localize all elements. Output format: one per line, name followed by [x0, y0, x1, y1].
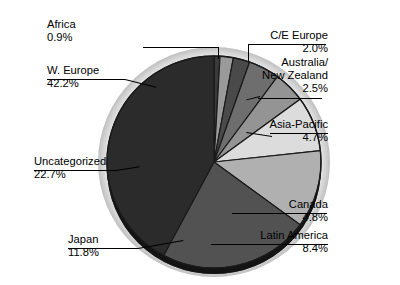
label-japan-name: Japan	[68, 233, 99, 246]
label-ce-europe: C/E Europe 2.0%	[208, 29, 328, 55]
label-japan: Japan 11.8%	[68, 233, 99, 259]
label-australia-new-zealand: Australia/ New Zealand 2.5%	[208, 56, 328, 96]
label-australia-value: 2.5%	[208, 82, 328, 95]
label-latin-america-name: Latin America	[208, 229, 328, 242]
label-ce-europe-name: C/E Europe	[208, 29, 328, 42]
label-latin-america: Latin America 8.4%	[208, 229, 328, 255]
label-japan-value: 11.8%	[68, 246, 99, 259]
label-w-europe: W. Europe 42.2%	[47, 64, 99, 90]
label-africa-value: 0.9%	[47, 31, 76, 44]
label-canada: Canada 4.8%	[208, 198, 328, 224]
label-canada-value: 4.8%	[208, 211, 328, 224]
label-uncategorized: Uncategorized 22.7%	[34, 155, 106, 181]
leader-line-africa-h	[143, 47, 218, 48]
label-australia-line1: Australia/	[208, 56, 328, 69]
label-asia-pacific: Asia-Pacific 4.7%	[208, 118, 328, 144]
label-africa: Africa 0.9%	[47, 18, 76, 44]
label-ce-europe-value: 2.0%	[208, 42, 328, 55]
label-latin-america-value: 8.4%	[208, 242, 328, 255]
chart-canvas: Africa 0.9% W. Europe 42.2% Uncategorize…	[0, 0, 400, 285]
label-uncategorized-name: Uncategorized	[34, 155, 106, 168]
label-asia-pacific-name: Asia-Pacific	[208, 118, 328, 131]
label-africa-name: Africa	[47, 18, 76, 31]
label-asia-pacific-value: 4.7%	[208, 131, 328, 144]
label-canada-name: Canada	[208, 198, 328, 211]
label-w-europe-name: W. Europe	[47, 64, 99, 77]
label-australia-line2: New Zealand	[208, 69, 328, 82]
label-uncategorized-value: 22.7%	[34, 168, 106, 181]
label-w-europe-value: 42.2%	[47, 77, 99, 90]
leader-line-australia-h	[258, 98, 322, 99]
